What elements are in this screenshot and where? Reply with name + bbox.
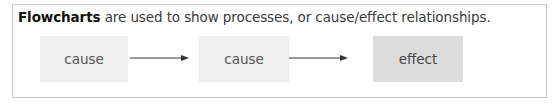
caption-term: Flowcharts: [18, 9, 100, 25]
node-effect: effect: [373, 36, 463, 82]
node-cause-1: cause: [40, 36, 128, 82]
caption: Flowcharts are used to show processes, o…: [18, 9, 491, 25]
node-label: effect: [399, 51, 438, 67]
node-cause-2: cause: [199, 36, 289, 82]
node-label: cause: [64, 51, 104, 67]
caption-text: are used to show processes, or cause/eff…: [100, 9, 490, 25]
arrow-right-icon: [130, 53, 190, 63]
arrow-right-icon: [289, 53, 349, 63]
node-label: cause: [224, 51, 264, 67]
